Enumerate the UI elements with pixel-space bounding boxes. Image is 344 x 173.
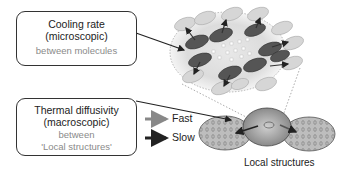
cooling-rate-sub: between molecules: [17, 45, 136, 57]
thermal-diffusivity-sub1: between: [17, 129, 136, 141]
cooling-rate-title: Cooling rate: [17, 18, 136, 30]
legend-fast-label: Fast: [172, 112, 192, 124]
thermal-diffusivity-scale: (macroscopic): [17, 116, 136, 128]
cooling-rate-scale: (microscopic): [17, 30, 136, 42]
local-structures: [199, 108, 335, 151]
molecular-cluster: [170, 5, 305, 98]
cooling-rate-box: Cooling rate (microscopic) between molec…: [16, 11, 137, 66]
local-structures-caption: Local structures: [244, 157, 315, 168]
legend-slow-label: Slow: [172, 131, 195, 143]
thermal-diffusivity-sub2: 'Local structures': [17, 141, 136, 153]
thermal-diffusivity-box: Thermal diffusivity (macroscopic) betwee…: [16, 98, 137, 156]
thermal-diffusivity-title: Thermal diffusivity: [17, 104, 136, 116]
